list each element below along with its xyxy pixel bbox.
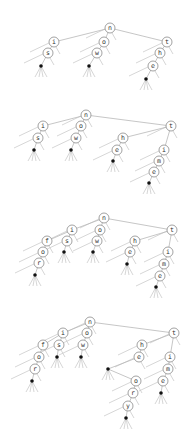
trie-node-o: o (82, 328, 92, 338)
node-label: w (74, 134, 78, 142)
null-link-stub (45, 257, 49, 264)
null-link-stub (73, 242, 92, 251)
null-link-stub (104, 407, 123, 416)
node-label: e (128, 248, 132, 256)
null-link-stub (106, 253, 125, 262)
terminal-node-dot (79, 355, 83, 359)
terminal-node-dot (87, 64, 91, 68)
node-label: i (41, 122, 45, 130)
null-link-stub (15, 264, 34, 273)
node-label: f (45, 237, 49, 245)
null-link-stub (137, 246, 141, 253)
trie-node-r: r (30, 364, 40, 374)
trie-node-n: n (105, 23, 115, 33)
null-link-stub (99, 246, 103, 253)
null-link-stub (165, 386, 169, 393)
node-label: o (85, 329, 89, 337)
null-link-stub (73, 54, 92, 63)
node-label: s (57, 341, 61, 349)
trie-node-e: e (125, 247, 135, 257)
trie-node-n: n (81, 110, 91, 120)
trie-nodes: niotfswhoeirmoery (30, 317, 179, 420)
null-link-stub (129, 67, 148, 76)
null-link-stub (93, 151, 112, 160)
trie-tree-4: niotfswhoeirmoery (11, 317, 180, 429)
trie-node-m: m (154, 156, 164, 166)
node-label: s (65, 237, 69, 245)
node-label: o (41, 248, 45, 256)
trie-node-n: n (99, 213, 109, 223)
trie-node-i: i (49, 37, 59, 47)
node-label: i (168, 353, 172, 361)
null-link-stub (11, 370, 30, 379)
trie-node-o: o (38, 247, 48, 257)
node-label: m (162, 260, 166, 268)
trie-node-m: m (159, 259, 169, 269)
node-label: o (98, 226, 102, 234)
terminal-node-dot (32, 148, 36, 152)
trie-node-n: n (85, 317, 95, 327)
node-label: w (95, 49, 99, 57)
trie-node-i: i (163, 247, 173, 257)
trie-edge (135, 230, 172, 241)
null-link-stub (156, 177, 160, 184)
node-label: t (172, 329, 176, 337)
trie-node-i: i (38, 121, 48, 131)
trie-node-s: s (33, 133, 43, 143)
null-link-stub (92, 327, 96, 334)
terminal-node-dot (62, 250, 66, 254)
trie-node-i: i (67, 225, 77, 235)
trie-tree-3: niotfswhoeirme (15, 213, 178, 298)
trie-node-w: w (92, 48, 102, 58)
trie-node-o: o (34, 352, 44, 362)
node-label: m (157, 157, 161, 165)
node-label: i (162, 146, 166, 154)
node-label: s (36, 134, 40, 142)
node-label: r (131, 389, 135, 397)
node-label: n (84, 111, 88, 119)
trie-node-h: h (130, 236, 140, 246)
trie-node-e: e (134, 352, 144, 362)
null-link-stub (88, 120, 92, 127)
trie-node-w: w (78, 340, 88, 350)
node-label: o (102, 38, 106, 46)
trie-diagram-canvas: niotswheniotswheimeniotfswhoeirmeniotfsw… (0, 0, 189, 443)
null-link-stub (139, 382, 158, 391)
null-link-stub (166, 155, 170, 162)
trie-node-t: t (167, 225, 177, 235)
node-label: o (37, 353, 41, 361)
trie-node-s: s (62, 236, 72, 246)
trie-node-w: w (92, 236, 102, 246)
terminal-node-dot (106, 367, 110, 371)
null-link-stub (132, 257, 136, 264)
trie-node-t: t (169, 328, 179, 338)
trie-node-o: o (76, 121, 86, 131)
null-link-stub (24, 54, 43, 63)
node-label: e (152, 168, 156, 176)
terminal-node-dot (39, 64, 43, 68)
trie-node-w: w (71, 133, 81, 143)
null-link-stub (125, 143, 129, 150)
null-link-stub (173, 131, 177, 138)
null-link-stub (83, 131, 87, 138)
null-link-stub (56, 47, 60, 54)
null-link-stub (118, 346, 137, 355)
null-link-stub (45, 131, 49, 138)
terminal-node-dot (55, 355, 59, 359)
null-link-stub (41, 268, 45, 275)
node-label: f (41, 341, 45, 349)
node-label: e (137, 353, 141, 361)
null-link-stub (78, 143, 82, 150)
null-link-stub (14, 139, 33, 148)
trie-node-e: e (112, 145, 122, 155)
node-label: e (115, 146, 119, 154)
node-label: t (170, 226, 174, 234)
node-label: t (169, 122, 173, 130)
null-link-stub (144, 350, 148, 357)
trie-edge (90, 322, 174, 333)
trie-tree-2: niotswheime (14, 110, 177, 194)
null-link-stub (174, 235, 178, 242)
node-label: h (158, 49, 162, 57)
trie-node-o: o (131, 376, 141, 386)
trie-node-i: i (165, 352, 175, 362)
